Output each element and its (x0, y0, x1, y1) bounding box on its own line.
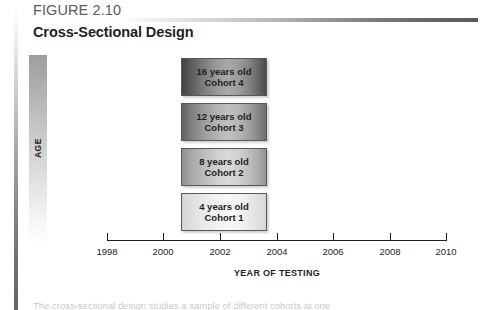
header-divider-rule (118, 18, 478, 22)
page-title: Cross-Sectional Design (33, 24, 194, 40)
cohort-bar-3: 12 years old Cohort 3 (181, 103, 267, 141)
x-axis-label-1998: 1998 (96, 246, 117, 257)
x-axis-tick-2006 (333, 233, 334, 241)
x-axis-tick-2000 (163, 233, 164, 241)
figure-page: FIGURE 2.10 Cross-Sectional Design AGE 1… (0, 0, 481, 310)
cohort-bar-4: 16 years old Cohort 4 (181, 58, 267, 96)
x-axis-tick-1998 (107, 233, 108, 241)
x-axis-tick-2010 (446, 233, 447, 241)
cohort-bar-2: 8 years old Cohort 2 (181, 148, 267, 186)
figure-caption-partial: The cross-sectional design studies a sam… (33, 300, 463, 310)
age-axis-label: AGE (29, 55, 47, 241)
page-edge-gradient-bar (14, 0, 18, 310)
cohort-bar-1-name: Cohort 1 (204, 212, 243, 223)
cohort-bar-3-age: 12 years old (197, 111, 252, 122)
x-axis-label-2000: 2000 (152, 246, 173, 257)
cohort-bar-2-name: Cohort 2 (204, 167, 243, 178)
x-axis-label-2004: 2004 (266, 246, 287, 257)
x-axis-tick-2008 (390, 233, 391, 241)
age-axis-label-text: AGE (33, 138, 43, 158)
cohort-bar-2-age: 8 years old (199, 156, 249, 167)
cohort-bar-1: 4 years old Cohort 1 (181, 193, 267, 231)
cohort-bar-4-age: 16 years old (197, 66, 252, 77)
x-axis-tick-2002 (220, 233, 221, 241)
cohort-bar-1-age: 4 years old (199, 201, 249, 212)
x-axis-label-2006: 2006 (322, 246, 343, 257)
figure-label: FIGURE 2.10 (33, 2, 121, 18)
x-axis-label-2010: 2010 (435, 246, 456, 257)
cohort-bar-3-name: Cohort 3 (204, 122, 243, 133)
x-axis-tick-2004 (277, 233, 278, 241)
x-axis-label-2008: 2008 (379, 246, 400, 257)
x-axis-title: YEAR OF TESTING (107, 268, 447, 278)
x-axis-label-2002: 2002 (209, 246, 230, 257)
cohort-bar-4-name: Cohort 4 (204, 77, 243, 88)
